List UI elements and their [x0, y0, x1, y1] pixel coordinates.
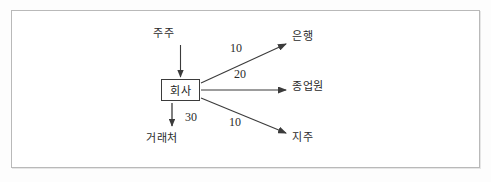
edge-value-employee: 20	[234, 68, 246, 81]
node-label-landowner: 지주	[292, 131, 313, 144]
node-label-bank: 은행	[292, 30, 313, 43]
edge-value-bank: 10	[230, 42, 242, 55]
edge-value-partner: 30	[185, 111, 197, 124]
edge-value-landowner: 10	[229, 116, 241, 129]
node-label-partner: 거래처	[146, 132, 178, 145]
node-label-company: 회사	[170, 82, 191, 98]
node-company-box: 회사	[161, 79, 200, 101]
figure-page: 주주 회사 은행 종업원 지주 거래처 10 20 10 30	[0, 0, 491, 182]
diagram-canvas	[0, 0, 491, 182]
edge-company-to-landowner	[201, 98, 286, 133]
node-label-shareholder: 주주	[153, 27, 174, 40]
node-label-employee: 종업원	[292, 80, 324, 93]
